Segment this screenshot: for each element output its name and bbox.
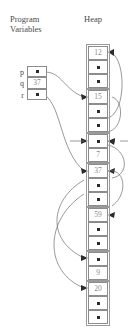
heap-cell: 9	[88, 266, 108, 280]
heap-cell: 7	[88, 148, 108, 162]
heap-cell-value: 9	[89, 268, 107, 278]
heap-cell	[88, 74, 108, 88]
pointer-dot-icon	[97, 140, 100, 143]
pointer-dot-icon	[36, 70, 39, 73]
heap-cell: 15	[88, 90, 108, 104]
pointer-dot-icon	[97, 80, 100, 83]
heap-cell: 37	[88, 164, 108, 178]
variable-value: 37	[28, 78, 46, 88]
heap-cell-value: 20	[89, 284, 107, 294]
variable-name-q: q	[12, 78, 24, 89]
variable-cell-q: 37	[27, 77, 47, 88]
pointer-dot-icon	[97, 184, 100, 187]
pointer-dot-icon	[97, 316, 100, 319]
heap-cell: 20	[88, 282, 108, 296]
heap-cell-value: 37	[89, 166, 107, 176]
pointer-dot-icon	[36, 93, 39, 96]
heap-cell	[88, 296, 108, 310]
heap-cell	[88, 104, 108, 118]
pointer-dot-icon	[97, 124, 100, 127]
pointer-dot-icon	[97, 110, 100, 113]
pointer-dot-icon	[97, 258, 100, 261]
heap-cell	[88, 252, 108, 266]
heap-cell	[88, 118, 108, 132]
heap-cell	[88, 192, 108, 206]
pointer-heap-diagram: ProgramVariables Heap pq37r	[0, 0, 134, 332]
heap-cell	[88, 222, 108, 236]
variable-cell-r	[27, 89, 47, 100]
variable-name-r: r	[12, 90, 24, 101]
heap-cell	[88, 236, 108, 250]
heap-cell: 12	[88, 46, 108, 60]
pointer-dot-icon	[97, 66, 100, 69]
pointer-dot-icon	[97, 302, 100, 305]
heap-cell	[88, 310, 108, 324]
pointer-dot-icon	[97, 198, 100, 201]
heap-cell-value: 15	[89, 92, 107, 102]
heap-cell	[88, 60, 108, 74]
pointer-arrows	[0, 0, 134, 332]
pointer-dot-icon	[97, 242, 100, 245]
heap-cell	[88, 178, 108, 192]
variable-cell-p	[27, 66, 47, 77]
heap-cell-value: 59	[89, 210, 107, 220]
variable-name-p: p	[12, 67, 24, 78]
heap-cell	[88, 134, 108, 148]
heap-cell: 59	[88, 208, 108, 222]
heap-cell-value: 7	[89, 150, 107, 160]
pointer-dot-icon	[97, 228, 100, 231]
heap-cell-value: 12	[89, 48, 107, 58]
